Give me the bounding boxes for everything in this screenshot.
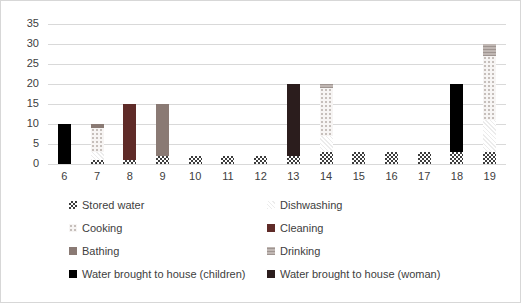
legend-label-drinking: Drinking xyxy=(280,244,320,258)
x-tick-label-9: 9 xyxy=(150,170,176,182)
x-tick-label-6: 6 xyxy=(51,170,77,182)
x-tick-label-12: 12 xyxy=(248,170,274,182)
x-tick-label-17: 17 xyxy=(411,170,437,182)
legend-item-bathing: Bathing xyxy=(69,244,265,258)
legend-swatch-cleaning xyxy=(267,224,275,232)
legend-label-cleaning: Cleaning xyxy=(280,221,323,235)
legend-label-water-brought-to-house-children: Water brought to house (children) xyxy=(82,267,245,281)
legend-label-dishwashing: Dishwashing xyxy=(280,198,342,212)
legend-item-water-brought-to-house-woman: Water brought to house (woman) xyxy=(267,267,440,281)
legend-label-cooking: Cooking xyxy=(82,221,122,235)
legend-item-stored-water: Stored water xyxy=(69,198,265,212)
legend-label-water-brought-to-house-woman: Water brought to house (woman) xyxy=(280,267,440,281)
legend-swatch-drinking xyxy=(267,247,275,255)
x-tick-label-16: 16 xyxy=(379,170,405,182)
x-tick-label-14: 14 xyxy=(313,170,339,182)
legend-item-cooking: Cooking xyxy=(69,221,265,235)
legend-swatch-stored-water xyxy=(69,201,77,209)
legend-swatch-water-brought-to-house-children xyxy=(69,270,77,278)
x-tick-label-18: 18 xyxy=(444,170,470,182)
legend-swatch-bathing xyxy=(69,247,77,255)
x-tick-label-8: 8 xyxy=(117,170,143,182)
x-tick-label-13: 13 xyxy=(280,170,306,182)
x-tick-label-11: 11 xyxy=(215,170,241,182)
legend-swatch-water-brought-to-house-woman xyxy=(267,270,275,278)
legend-item-dishwashing: Dishwashing xyxy=(267,198,440,212)
legend-label-bathing: Bathing xyxy=(82,244,119,258)
x-tick-label-19: 19 xyxy=(477,170,503,182)
legend-swatch-cooking xyxy=(69,224,77,232)
legend-swatch-dishwashing xyxy=(267,201,275,209)
legend-label-stored-water: Stored water xyxy=(82,198,144,212)
stacked-bar-chart-figure: 35302520151050 678910111213141516171819 … xyxy=(0,0,521,303)
x-tick-label-7: 7 xyxy=(84,170,110,182)
legend-item-water-brought-to-house-children: Water brought to house (children) xyxy=(69,267,265,281)
legend-item-cleaning: Cleaning xyxy=(267,221,440,235)
chart-legend: Stored waterDishwashingCookingCleaningBa… xyxy=(69,198,440,281)
legend-item-drinking: Drinking xyxy=(267,244,440,258)
x-tick-label-10: 10 xyxy=(182,170,208,182)
x-tick-label-15: 15 xyxy=(346,170,372,182)
